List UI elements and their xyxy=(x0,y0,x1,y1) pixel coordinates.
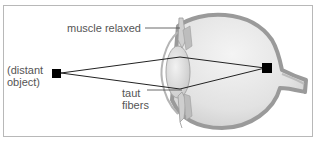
label-taut-line1: taut xyxy=(122,87,149,99)
distant-object-square xyxy=(52,69,61,78)
label-distant-line1: (distant xyxy=(7,64,43,76)
sclera-outline xyxy=(172,15,306,128)
label-distant-line2: object) xyxy=(7,76,43,88)
label-distant-object: (distant object) xyxy=(7,64,43,88)
label-taut-line2: fibers xyxy=(122,99,149,111)
retina-image-square xyxy=(262,63,272,73)
eyeball xyxy=(172,15,306,128)
label-taut-fibers: taut fibers xyxy=(122,87,149,111)
eye-accommodation-diagram xyxy=(0,0,316,143)
label-muscle-relaxed: muscle relaxed xyxy=(67,22,141,34)
